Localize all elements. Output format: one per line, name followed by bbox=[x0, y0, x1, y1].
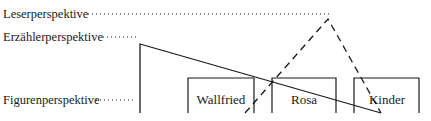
box-label: Wallfried bbox=[197, 92, 246, 107]
box-label: Kinder bbox=[369, 92, 406, 107]
perspective-diagram: Leserperspektive Erzählerperspektive Fig… bbox=[0, 0, 431, 121]
reader-perspective-label: Leserperspektive bbox=[3, 7, 89, 21]
figure-perspective-label: Figurenperspektive bbox=[3, 93, 100, 107]
narrator-perspective-label: Erzählerperspektive bbox=[3, 30, 103, 44]
box-rosa: Rosa bbox=[272, 78, 336, 113]
narrator-perspective-line bbox=[140, 44, 381, 113]
box-wallfried: Wallfried bbox=[188, 78, 254, 113]
